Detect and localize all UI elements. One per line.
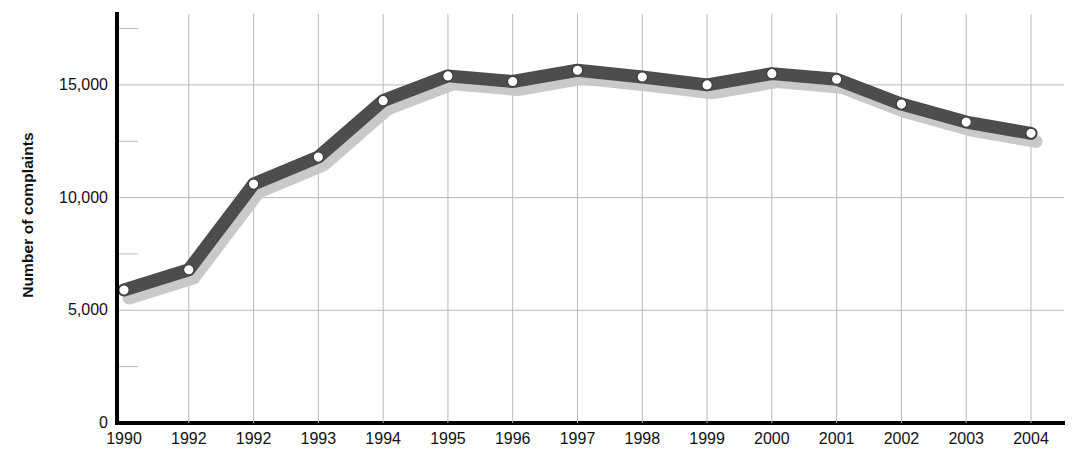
data-point-marker <box>961 117 971 127</box>
x-tick-label: 2003 <box>948 430 984 448</box>
data-point-marker <box>119 285 129 295</box>
data-point-marker <box>831 74 841 84</box>
x-tick-label: 2000 <box>754 430 790 448</box>
data-point-marker <box>443 71 453 81</box>
y-tick-label: 0 <box>30 414 108 432</box>
x-tick-label: 1994 <box>365 430 401 448</box>
data-point-marker <box>313 152 323 162</box>
line-chart: Number of complaints 05,00010,00015,000 … <box>0 0 1072 469</box>
plot-area <box>119 14 1064 423</box>
data-point-marker <box>637 72 647 82</box>
x-tick-label: 2001 <box>819 430 855 448</box>
y-tick-label: 5,000 <box>30 301 108 319</box>
x-tick-label: 1995 <box>430 430 466 448</box>
series-plot <box>119 14 1064 423</box>
x-tick-label: 1992 <box>171 430 207 448</box>
y-tick-label: 15,000 <box>30 76 108 94</box>
y-axis-tick-labels: 05,00010,00015,000 <box>30 0 108 469</box>
x-tick-label: 1999 <box>689 430 725 448</box>
series-shadow <box>129 78 1036 298</box>
data-point-marker <box>248 179 258 189</box>
x-tick-label: 1997 <box>560 430 596 448</box>
data-point-marker <box>508 76 518 86</box>
data-point-marker <box>767 68 777 78</box>
data-point-marker <box>184 265 194 275</box>
y-tick-label: 10,000 <box>30 189 108 207</box>
x-tick-label: 2004 <box>1013 430 1049 448</box>
data-point-marker <box>702 80 712 90</box>
x-tick-label: 2002 <box>884 430 920 448</box>
x-tick-label: 1998 <box>624 430 660 448</box>
data-point-marker <box>378 95 388 105</box>
data-point-marker <box>1026 128 1036 138</box>
x-tick-label: 1992 <box>236 430 272 448</box>
data-point-marker <box>896 99 906 109</box>
x-tick-label: 1993 <box>301 430 337 448</box>
data-point-marker <box>572 65 582 75</box>
x-tick-label: 1996 <box>495 430 531 448</box>
x-tick-label: 1990 <box>106 430 142 448</box>
